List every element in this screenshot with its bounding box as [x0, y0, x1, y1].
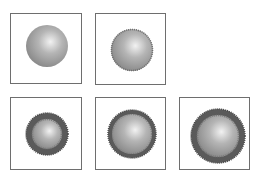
panel-p1	[10, 13, 82, 84]
particle-icon	[96, 14, 167, 86]
particle-icon	[96, 98, 167, 171]
panel-p5	[179, 97, 250, 170]
panel-p3	[10, 97, 82, 170]
particle-icon	[11, 14, 83, 85]
core-sphere	[111, 29, 153, 71]
particle-icon	[180, 98, 251, 171]
core-sphere	[26, 25, 68, 67]
core-sphere	[112, 114, 152, 154]
core-sphere	[197, 115, 239, 157]
particle-icon	[11, 98, 83, 171]
panel-p2	[95, 13, 166, 85]
panel-p4	[95, 97, 166, 170]
